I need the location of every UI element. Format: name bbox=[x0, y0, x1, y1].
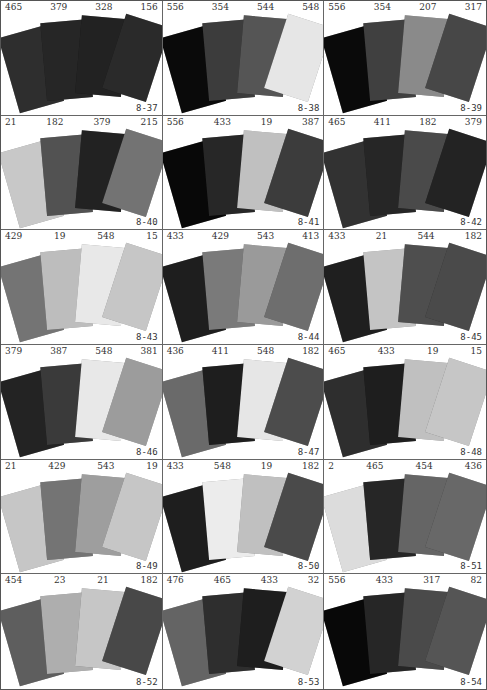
color-code: 413 bbox=[302, 231, 319, 242]
color-code-row: 379387548381 bbox=[5, 346, 158, 357]
color-code: 544 bbox=[417, 231, 434, 242]
color-code: 182 bbox=[140, 575, 157, 586]
panel-id-label: 8-40 bbox=[136, 217, 158, 227]
color-code: 215 bbox=[140, 117, 157, 128]
color-code: 411 bbox=[374, 117, 391, 128]
color-code: 433 bbox=[378, 346, 395, 357]
color-code: 433 bbox=[328, 231, 345, 242]
color-code-row: 2142954319 bbox=[5, 461, 158, 472]
panel-id-label: 8-43 bbox=[136, 332, 158, 342]
color-code: 548 bbox=[214, 461, 231, 472]
color-code-row: 43321544182 bbox=[328, 231, 482, 242]
panel-id-label: 8-41 bbox=[298, 217, 320, 227]
color-code-row: 465411182379 bbox=[328, 117, 482, 128]
swatch-panel: 5563545445488-38 bbox=[163, 1, 325, 116]
color-code: 548 bbox=[302, 2, 319, 13]
color-code: 436 bbox=[465, 461, 482, 472]
color-code: 548 bbox=[97, 231, 114, 242]
color-code-row: 556354207317 bbox=[328, 2, 482, 13]
panel-id-label: 8-46 bbox=[136, 447, 158, 457]
color-code: 543 bbox=[257, 231, 274, 242]
color-code: 381 bbox=[140, 346, 157, 357]
color-code: 19 bbox=[54, 231, 65, 242]
color-code: 379 bbox=[5, 346, 22, 357]
color-code: 433 bbox=[261, 575, 278, 586]
swatch-panel: 46543319158-48 bbox=[324, 345, 486, 460]
color-code: 548 bbox=[95, 346, 112, 357]
color-code-row: 43354819182 bbox=[167, 461, 320, 472]
color-code: 411 bbox=[212, 346, 229, 357]
color-code: 21 bbox=[5, 461, 16, 472]
color-code: 379 bbox=[93, 117, 110, 128]
color-code: 21 bbox=[97, 575, 108, 586]
color-code-row: 556354544548 bbox=[167, 2, 320, 13]
color-code-row: 21182379215 bbox=[5, 117, 158, 128]
color-code: 556 bbox=[167, 117, 184, 128]
panel-id-label: 8-49 bbox=[136, 561, 158, 571]
color-code: 556 bbox=[328, 575, 345, 586]
color-code: 465 bbox=[366, 461, 383, 472]
panel-id-label: 8-42 bbox=[460, 217, 482, 227]
color-code-row: 465379328156 bbox=[5, 2, 158, 13]
panel-id-label: 8-37 bbox=[136, 103, 158, 113]
color-code: 429 bbox=[5, 231, 22, 242]
color-code: 19 bbox=[261, 461, 272, 472]
swatch-panel: 42919548158-43 bbox=[1, 230, 163, 345]
panel-id-label: 8-38 bbox=[298, 103, 320, 113]
swatch-panel: 556433193878-41 bbox=[163, 116, 325, 231]
color-code: 15 bbox=[146, 231, 157, 242]
color-code: 433 bbox=[167, 231, 184, 242]
swatch-panel: 556433317828-54 bbox=[324, 574, 486, 689]
color-code: 354 bbox=[212, 2, 229, 13]
color-code: 556 bbox=[328, 2, 345, 13]
color-code: 544 bbox=[257, 2, 274, 13]
panel-id-label: 8-47 bbox=[298, 447, 320, 457]
color-code: 156 bbox=[140, 2, 157, 13]
color-code: 433 bbox=[214, 117, 231, 128]
color-code: 182 bbox=[46, 117, 63, 128]
color-code: 182 bbox=[302, 461, 319, 472]
swatch-panel: 5563542073178-39 bbox=[324, 1, 486, 116]
color-code: 433 bbox=[376, 575, 393, 586]
color-code: 465 bbox=[5, 2, 22, 13]
color-code-row: 433429543413 bbox=[167, 231, 320, 242]
swatch-panel: 433548191828-50 bbox=[163, 460, 325, 575]
color-code-row: 55643331782 bbox=[328, 575, 482, 586]
color-code: 429 bbox=[48, 461, 65, 472]
color-code: 465 bbox=[328, 117, 345, 128]
color-code: 379 bbox=[50, 2, 67, 13]
color-code: 317 bbox=[465, 2, 482, 13]
panel-id-label: 8-52 bbox=[136, 677, 158, 687]
swatch-panel: 3793875483818-46 bbox=[1, 345, 163, 460]
swatch-panel: 476465433328-53 bbox=[163, 574, 325, 689]
color-code: 182 bbox=[419, 117, 436, 128]
panel-id-label: 8-50 bbox=[298, 561, 320, 571]
swatch-panel: 21429543198-49 bbox=[1, 460, 163, 575]
color-code: 454 bbox=[416, 461, 433, 472]
color-code: 465 bbox=[328, 346, 345, 357]
color-code: 429 bbox=[212, 231, 229, 242]
color-code: 556 bbox=[167, 2, 184, 13]
color-code: 354 bbox=[374, 2, 391, 13]
color-code: 328 bbox=[95, 2, 112, 13]
color-code: 387 bbox=[302, 117, 319, 128]
color-code: 182 bbox=[465, 231, 482, 242]
color-code: 548 bbox=[257, 346, 274, 357]
panel-id-label: 8-51 bbox=[460, 561, 482, 571]
panel-id-label: 8-45 bbox=[460, 332, 482, 342]
color-code: 19 bbox=[146, 461, 157, 472]
color-code: 433 bbox=[167, 461, 184, 472]
color-code-row: 2465454436 bbox=[328, 461, 482, 472]
swatch-panel: 24654544368-51 bbox=[324, 460, 486, 575]
swatch-panel: 211823792158-40 bbox=[1, 116, 163, 231]
color-code-row: 47646543332 bbox=[167, 575, 320, 586]
swatch-panel: 4654111823798-42 bbox=[324, 116, 486, 231]
color-code: 317 bbox=[423, 575, 440, 586]
color-code-row: 4654331915 bbox=[328, 346, 482, 357]
color-code-row: 4542321182 bbox=[5, 575, 158, 586]
color-code: 23 bbox=[54, 575, 65, 586]
color-code-row: 55643319387 bbox=[167, 117, 320, 128]
color-code-row: 4291954815 bbox=[5, 231, 158, 242]
swatch-panel: 433215441828-45 bbox=[324, 230, 486, 345]
color-code: 32 bbox=[308, 575, 319, 586]
